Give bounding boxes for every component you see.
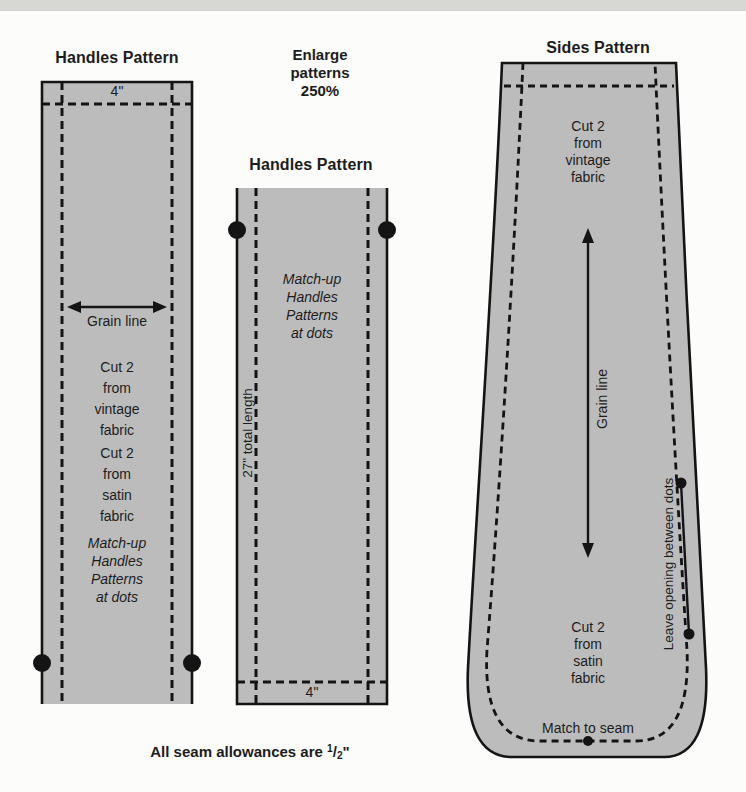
- pattern-instruction-page: Enlarge patterns 250% Handles Pattern 4"…: [0, 0, 746, 792]
- handles-1-match-note: Match-up Handles Patterns at dots: [42, 534, 192, 606]
- sides-grain-label: Grain line: [594, 369, 610, 429]
- handles-pattern-2-title: Handles Pattern: [231, 157, 391, 173]
- sides-cut-vintage-note: Cut 2 from vintage fabric: [513, 118, 663, 186]
- handles-1-grain-label: Grain line: [42, 314, 192, 328]
- opening-dot: [676, 478, 687, 489]
- handles-2-length-label: 27" total length: [240, 388, 255, 478]
- match-dot: [228, 221, 246, 239]
- sides-match-seam-label: Match to seam: [513, 721, 663, 735]
- sides-pattern-title: Sides Pattern: [518, 40, 678, 56]
- enlarge-note: Enlarge patterns 250%: [262, 46, 378, 100]
- handles-2-fill: [237, 188, 387, 704]
- handles-1-cut-vintage-note: Cut 2 from vintage fabric: [42, 357, 192, 441]
- opening-dot: [684, 629, 695, 640]
- sides-cut-satin-note: Cut 2 from satin fabric: [513, 619, 663, 687]
- match-dot: [183, 654, 201, 672]
- handles-2-width-label: 4": [237, 685, 387, 699]
- match-dot: [33, 654, 51, 672]
- handles-pattern-1-title: Handles Pattern: [37, 50, 197, 66]
- seam-allowance-text: All seam allowances are: [150, 743, 323, 760]
- handles-2-match-note: Match-up Handles Patterns at dots: [237, 270, 387, 342]
- match-to-seam-dot: [583, 736, 593, 746]
- inch-mark: ": [343, 743, 350, 760]
- handles-1-width-label: 4": [42, 84, 192, 98]
- handles-1-cut-satin-note: Cut 2 from satin fabric: [42, 443, 192, 527]
- match-dot: [378, 221, 396, 239]
- seam-allowance-note: All seam allowances are1/2": [70, 743, 430, 761]
